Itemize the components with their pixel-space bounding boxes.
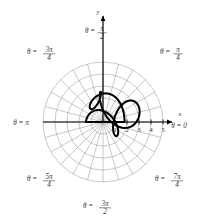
angle-label-denominator: 4 bbox=[47, 181, 51, 189]
angle-label-denominator: 2 bbox=[100, 33, 104, 41]
tick-label-r4: 4 bbox=[149, 126, 153, 133]
grid-spoke-195 bbox=[45, 122, 103, 138]
polar-plot-canvas: 1 2 3 4 5 y x θ = 0 θ = π θ = π 2 bbox=[0, 0, 210, 224]
angle-label-prefix: θ = bbox=[83, 202, 93, 210]
angle-label-prefix: θ = bbox=[155, 175, 165, 183]
angle-label-theta-7pi-over-4: θ = 7π 4 bbox=[155, 173, 183, 189]
grid-spoke-240 bbox=[73, 122, 103, 174]
angle-label-theta-0: θ = 0 bbox=[171, 122, 187, 130]
angle-label-numerator: 5π bbox=[45, 173, 53, 181]
grid-spoke-135 bbox=[61, 80, 103, 122]
angle-label-prefix: θ = bbox=[85, 27, 95, 35]
angle-label-prefix: θ = bbox=[160, 48, 170, 56]
angle-label-theta-pi-over-2: θ = π 2 bbox=[85, 25, 107, 41]
angle-label-theta-pi: θ = π bbox=[13, 119, 29, 127]
angle-label-prefix: θ = bbox=[27, 48, 37, 56]
grid-spoke-30 bbox=[103, 92, 155, 122]
angle-label-denominator: 2 bbox=[103, 208, 107, 216]
tick-label-r3: 3 bbox=[137, 126, 140, 133]
tick-label-r5: 5 bbox=[161, 126, 164, 133]
angle-label-denominator: 4 bbox=[47, 54, 51, 62]
angle-label-numerator: 3π bbox=[100, 200, 109, 208]
grid-spoke-255 bbox=[87, 122, 103, 180]
polar-plot-figure: 1 2 3 4 5 y x θ = 0 θ = π θ = π 2 bbox=[0, 0, 210, 224]
y-axis-label: y bbox=[96, 8, 100, 15]
angle-label-theta-3pi-over-4: θ = 3π 4 bbox=[27, 46, 55, 62]
angle-label-numerator: π bbox=[100, 25, 104, 33]
angle-label-numerator: 3π bbox=[44, 46, 53, 54]
grid-spoke-15 bbox=[103, 106, 161, 122]
angle-label-denominator: 4 bbox=[175, 181, 179, 189]
x-axis-label: x bbox=[178, 110, 182, 117]
grid-spoke-225 bbox=[61, 122, 103, 164]
angle-label-numerator: 7π bbox=[173, 173, 181, 181]
tick-label-r2: 2 bbox=[125, 126, 128, 133]
angle-label-denominator: 4 bbox=[176, 54, 180, 62]
angle-label-theta-5pi-over-4: θ = 5π 4 bbox=[27, 173, 55, 189]
angle-label-prefix: θ = bbox=[27, 175, 37, 183]
grid-spoke-210 bbox=[51, 122, 103, 152]
angle-label-theta-3pi-over-2: θ = 3π 2 bbox=[83, 200, 111, 216]
angle-label-theta-pi-over-4: θ = π 4 bbox=[160, 46, 183, 62]
angle-label-numerator: π bbox=[176, 46, 180, 54]
